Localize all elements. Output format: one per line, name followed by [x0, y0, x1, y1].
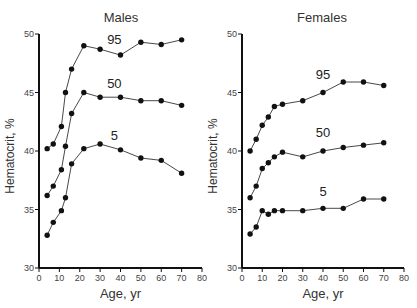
y-tick-label: 45 — [24, 88, 34, 98]
data-point — [51, 220, 56, 225]
data-point — [63, 144, 68, 149]
data-point — [63, 90, 68, 95]
data-point — [266, 160, 271, 165]
data-point — [59, 124, 64, 129]
data-point — [138, 155, 143, 160]
data-point — [51, 183, 56, 188]
percentile-label: 95 — [107, 32, 121, 47]
x-tick-label: 80 — [197, 273, 207, 283]
data-point — [159, 42, 164, 47]
data-point — [320, 206, 325, 211]
data-point — [69, 111, 74, 116]
data-point — [118, 52, 123, 57]
data-point — [300, 154, 305, 159]
percentile-label: 95 — [316, 67, 330, 82]
data-point — [361, 142, 366, 147]
percentile-label: 50 — [107, 76, 121, 91]
x-tick-label: 40 — [115, 273, 125, 283]
x-tick-label: 70 — [379, 273, 389, 283]
data-point — [260, 208, 265, 213]
y-tick-label: 35 — [227, 205, 237, 215]
x-tick-label: 70 — [177, 273, 187, 283]
y-tick-label: 50 — [227, 29, 237, 39]
x-tick-label: 60 — [156, 273, 166, 283]
series-line — [250, 143, 384, 198]
data-point — [253, 183, 258, 188]
males-panel: Males303540455001020304050607080Age, yrH… — [3, 10, 207, 301]
females-x-axis-label: Age, yr — [302, 286, 344, 301]
females-y-axis-label: Hematocrit, % — [206, 118, 220, 194]
x-tick-label: 20 — [75, 273, 85, 283]
x-tick-label: 10 — [257, 273, 267, 283]
data-point — [59, 167, 64, 172]
x-tick-label: 40 — [318, 273, 328, 283]
data-point — [341, 206, 346, 211]
data-point — [138, 39, 143, 44]
females-series-p50: 50 — [247, 125, 386, 200]
y-tick-label: 40 — [24, 146, 34, 156]
data-point — [51, 141, 56, 146]
data-point — [320, 90, 325, 95]
data-point — [44, 193, 49, 198]
data-point — [81, 146, 86, 151]
percentile-label: 50 — [316, 125, 330, 140]
data-point — [260, 166, 265, 171]
data-point — [300, 98, 305, 103]
data-point — [44, 146, 49, 151]
data-point — [81, 90, 86, 95]
x-tick-label: 50 — [136, 273, 146, 283]
data-point — [97, 94, 102, 99]
data-point — [361, 79, 366, 84]
percentile-label: 5 — [319, 184, 326, 199]
x-tick-label: 30 — [95, 273, 105, 283]
y-tick-label: 35 — [24, 205, 34, 215]
chart-canvas: Males303540455001020304050607080Age, yrH… — [0, 0, 417, 308]
data-point — [59, 208, 64, 213]
x-tick-label: 60 — [358, 273, 368, 283]
data-point — [280, 149, 285, 154]
data-point — [69, 161, 74, 166]
data-point — [97, 141, 102, 146]
data-point — [280, 208, 285, 213]
data-point — [381, 83, 386, 88]
data-point — [81, 43, 86, 48]
data-point — [266, 211, 271, 216]
data-point — [138, 98, 143, 103]
y-tick-label: 40 — [227, 146, 237, 156]
data-point — [381, 196, 386, 201]
data-point — [159, 158, 164, 163]
y-tick-label: 45 — [227, 88, 237, 98]
x-tick-label: 0 — [239, 273, 244, 283]
data-point — [118, 147, 123, 152]
x-tick-label: 20 — [277, 273, 287, 283]
males-x-axis-label: Age, yr — [100, 286, 142, 301]
data-point — [247, 148, 252, 153]
data-point — [97, 47, 102, 52]
data-point — [272, 154, 277, 159]
data-point — [63, 195, 68, 200]
data-point — [159, 98, 164, 103]
females-series-p5: 5 — [247, 184, 386, 237]
x-tick-label: 50 — [338, 273, 348, 283]
data-point — [179, 103, 184, 108]
x-tick-label: 30 — [298, 273, 308, 283]
y-tick-label: 30 — [227, 263, 237, 273]
data-point — [266, 114, 271, 119]
data-point — [341, 79, 346, 84]
y-tick-label: 50 — [24, 29, 34, 39]
data-point — [118, 94, 123, 99]
data-point — [69, 66, 74, 71]
series-line — [250, 199, 384, 234]
data-point — [247, 231, 252, 236]
males-y-axis-label: Hematocrit, % — [3, 118, 17, 194]
data-point — [272, 208, 277, 213]
data-point — [179, 37, 184, 42]
males-chart-title: Males — [104, 10, 139, 25]
x-tick-label: 10 — [54, 273, 64, 283]
females-panel: Females303540455001020304050607080Age, y… — [206, 10, 409, 301]
percentile-label: 5 — [111, 128, 118, 143]
data-point — [280, 102, 285, 107]
data-point — [361, 196, 366, 201]
data-point — [247, 195, 252, 200]
females-series-p95: 95 — [247, 67, 386, 154]
